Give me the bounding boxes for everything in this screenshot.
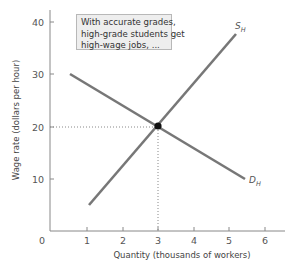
supply-curve <box>89 34 236 205</box>
x-tick-label: 6 <box>262 235 268 246</box>
annotation-box: With accurate grades, high-grade student… <box>76 14 172 50</box>
x-tick-label: 3 <box>155 235 161 246</box>
x-tick-label: 1 <box>84 235 90 246</box>
x-tick-label: 2 <box>120 235 126 246</box>
y-tick-label: 10 <box>32 174 44 185</box>
y-tick-label: 20 <box>32 122 44 133</box>
annotation-line: high-grade students get <box>81 29 171 41</box>
x-ticks: 0 1 2 3 4 5 6 <box>39 227 268 246</box>
y-tick-label: 40 <box>32 17 44 28</box>
equilibrium-point <box>154 122 161 129</box>
x-tick-label: 0 <box>39 235 45 246</box>
x-tick-label: 5 <box>226 235 232 246</box>
annotation-line: With accurate grades, <box>81 17 171 29</box>
y-tick-label: 30 <box>32 69 44 80</box>
y-ticks: 40 30 20 10 <box>32 17 54 185</box>
x-axis-title: Quantity (thousands of workers) <box>113 250 250 260</box>
x-tick-label: 4 <box>191 235 197 246</box>
supply-curve-label: SH <box>235 21 246 34</box>
y-axis-title: Wage rate (dollars per hour) <box>11 60 21 180</box>
annotation-line: high-wage jobs, ... <box>81 40 171 52</box>
demand-curve-label: DH <box>249 175 261 188</box>
